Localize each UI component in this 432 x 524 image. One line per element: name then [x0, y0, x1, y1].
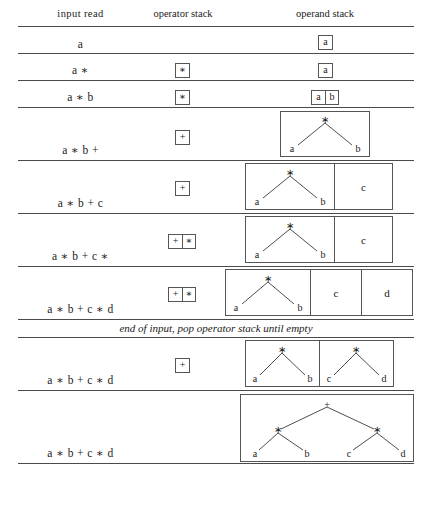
operand-cell-leaf: c: [334, 164, 392, 209]
operand-stack-strip: ∗ a b ∗ c d: [245, 340, 394, 387]
table-row: a ∗ b + c ∗ d: [18, 391, 414, 463]
rule-row-9: [18, 463, 414, 464]
cell-input-read: a ∗ b + c ∗ d: [18, 373, 143, 387]
tree-node-right: b: [298, 302, 303, 313]
expression-tree-ab: ∗ a b: [246, 341, 319, 386]
operand-cell-tree: ∗ a b: [246, 164, 334, 209]
operator-token: ∗: [182, 235, 195, 248]
operator-token: +: [176, 131, 189, 144]
expression-tree-ab: ∗ a b: [246, 217, 334, 262]
table-row: a ∗ b + c + ∗: [18, 161, 414, 213]
operand-cell-tree: + ∗ ∗ a b c d: [241, 395, 413, 461]
cell-input-read: a ∗ b + c ∗ d: [18, 446, 143, 460]
operator-box-group: ∗: [175, 63, 190, 78]
operand-cell-tree: ∗ c d: [319, 341, 393, 386]
operator-token: ∗: [176, 91, 189, 104]
tree-node-left: a: [253, 373, 258, 384]
operand-cell-leaf: c: [334, 217, 392, 262]
tree-node-left-root: ∗: [274, 424, 282, 435]
tree-node-left: a: [255, 196, 260, 207]
tree-node-right-root: ∗: [373, 424, 381, 435]
operator-token: +: [176, 359, 189, 372]
operand-cell-tree: ∗ a b: [246, 341, 319, 386]
tree-leaf-a: a: [253, 448, 258, 459]
operand-box-group: a: [318, 35, 333, 50]
operand-box-group: a: [318, 63, 333, 78]
table-row: a a: [18, 27, 414, 53]
table-row: a ∗ ∗ a: [18, 54, 414, 80]
operand-cell-leaf: d: [361, 270, 412, 315]
tree-node-right: b: [356, 143, 361, 154]
tree-node-right: d: [382, 373, 387, 384]
operator-token: +: [169, 288, 182, 301]
expression-tree-ab: ∗ a b: [281, 112, 369, 156]
tree-leaf-d: d: [401, 448, 406, 459]
expression-tree-full: + ∗ ∗ a b c d: [241, 395, 413, 461]
tree-node-left: a: [255, 249, 260, 260]
cell-input-read: a ∗ b +: [18, 143, 143, 157]
tree-node-root: ∗: [264, 273, 272, 284]
tree-leaf-c: c: [347, 448, 352, 459]
column-header-input-read: input read: [18, 8, 143, 19]
tree-node-right: b: [321, 196, 326, 207]
tree-node-root: +: [324, 399, 330, 410]
operand-cell-tree: ∗ a b: [226, 270, 310, 315]
operand-stack-strip: + ∗ ∗ a b c d: [240, 394, 414, 462]
column-header-operator-stack: operator stack: [136, 8, 230, 19]
tree-node-root: ∗: [286, 167, 294, 178]
operator-token: +: [169, 235, 182, 248]
cell-input-read: a ∗: [18, 63, 143, 77]
operand-token: a: [319, 36, 332, 49]
operator-box-group: +: [175, 181, 190, 196]
tree-node-left: a: [234, 302, 239, 313]
table-header-row: input read operator stack operand stack: [18, 6, 414, 26]
operand-cell-leaf: c: [310, 270, 361, 315]
operand-stack-strip: ∗ a b c: [245, 216, 393, 263]
operator-box-group: +: [175, 130, 190, 145]
operand-cell-tree: ∗ a b: [281, 112, 369, 156]
cell-input-read: a ∗ b + c: [18, 196, 143, 210]
cell-input-read: a ∗ b + c ∗ d: [18, 302, 143, 316]
cell-input-read: a: [18, 38, 143, 50]
expression-tree-ab: ∗ a b: [246, 164, 334, 209]
operand-stack-strip: ∗ a b: [280, 111, 370, 157]
table-row: a ∗ b + c ∗ + ∗ ∗: [18, 214, 414, 266]
tree-node-right: b: [308, 373, 313, 384]
expression-tree-cd: ∗ c d: [320, 341, 393, 386]
tree-node-root: ∗: [286, 220, 294, 231]
figure-canvas: input read operator stack operand stack …: [0, 0, 432, 524]
parse-trace-table: input read operator stack operand stack …: [18, 6, 414, 464]
operator-box-group: + ∗: [168, 287, 196, 302]
operand-token: a: [312, 91, 325, 104]
operand-box-group: a b: [311, 90, 339, 105]
table-row: a ∗ b ∗ a b: [18, 81, 414, 107]
operator-token: ∗: [182, 288, 195, 301]
table-row: a ∗ b + c ∗ d + ∗: [18, 267, 414, 319]
tree-node-right: b: [321, 249, 326, 260]
expression-tree-ab: ∗ a b: [226, 270, 310, 315]
tree-node-left: c: [327, 373, 332, 384]
operator-token: ∗: [176, 64, 189, 77]
tree-leaf-b: b: [305, 448, 310, 459]
table-row: a ∗ b + + ∗ a: [18, 108, 414, 160]
operator-token: +: [176, 182, 189, 195]
operand-token: a: [319, 64, 332, 77]
end-of-input-note: end of input, pop operator stack until e…: [18, 322, 414, 334]
tree-node-root: ∗: [352, 344, 360, 355]
tree-node-root: ∗: [278, 344, 286, 355]
operand-stack-strip: ∗ a b c d: [225, 269, 413, 316]
operator-box-group: + ∗: [168, 234, 196, 249]
tree-node-left: a: [290, 143, 295, 154]
operator-box-group: ∗: [175, 90, 190, 105]
cell-input-read: a ∗ b + c ∗: [18, 249, 143, 263]
note-row: end of input, pop operator stack until e…: [18, 320, 414, 337]
tree-node-root: ∗: [321, 114, 329, 125]
cell-input-read: a ∗ b: [18, 90, 143, 104]
table-row: a ∗ b + c ∗ d + ∗: [18, 338, 414, 390]
operator-box-group: +: [175, 358, 190, 373]
operand-cell-tree: ∗ a b: [246, 217, 334, 262]
column-header-operand-stack: operand stack: [230, 8, 420, 19]
operand-token: b: [325, 91, 338, 104]
operand-stack-strip: ∗ a b c: [245, 163, 393, 210]
